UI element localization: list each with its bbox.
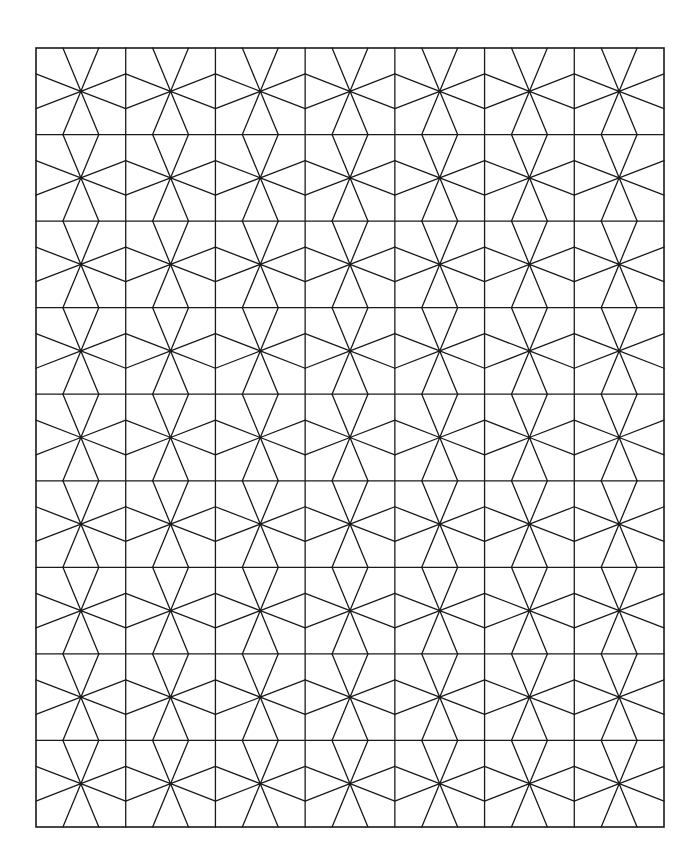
star-center-dot (348, 782, 351, 785)
star-center-dot (528, 436, 531, 439)
star-center-dot (438, 522, 441, 525)
star-center-dot (79, 436, 82, 439)
star-center-dot (169, 263, 172, 266)
star-center-dot (618, 349, 621, 352)
star-center-dot (259, 176, 262, 179)
star-center-dot (528, 522, 531, 525)
star-center-dot (438, 436, 441, 439)
star-center-dot (348, 696, 351, 699)
star-center-dot (169, 696, 172, 699)
star-center-dot (438, 349, 441, 352)
star-center-dot (259, 696, 262, 699)
star-center-dot (79, 176, 82, 179)
star-center-dot (348, 522, 351, 525)
star-center-dot (259, 436, 262, 439)
star-center-dot (79, 522, 82, 525)
star-center-dot (79, 263, 82, 266)
star-center-dot (618, 522, 621, 525)
star-center-dot (79, 696, 82, 699)
star-center-dot (348, 609, 351, 612)
star-center-dot (528, 90, 531, 93)
star-center-dot (259, 349, 262, 352)
star-center-dot (169, 90, 172, 93)
star-center-dot (528, 696, 531, 699)
star-center-dot (348, 176, 351, 179)
star-center-dot (618, 90, 621, 93)
star-grid-pattern (0, 0, 699, 863)
star-center-dot (169, 436, 172, 439)
star-center-dots (79, 90, 620, 786)
star-center-dot (618, 609, 621, 612)
star-center-dot (528, 609, 531, 612)
star-center-dot (79, 349, 82, 352)
star-center-dot (618, 696, 621, 699)
star-center-dot (618, 263, 621, 266)
star-center-dot (528, 782, 531, 785)
star-center-dot (79, 90, 82, 93)
star-center-dot (169, 522, 172, 525)
star-center-dot (79, 782, 82, 785)
star-center-dot (438, 90, 441, 93)
star-center-dot (259, 782, 262, 785)
star-center-dot (348, 436, 351, 439)
star-center-dot (79, 609, 82, 612)
star-center-dot (438, 782, 441, 785)
star-center-dot (169, 609, 172, 612)
star-center-dot (169, 176, 172, 179)
star-center-dot (618, 782, 621, 785)
star-center-dot (259, 522, 262, 525)
star-center-dot (169, 782, 172, 785)
star-center-dot (438, 263, 441, 266)
star-center-dot (169, 349, 172, 352)
pattern-canvas (0, 0, 699, 863)
star-center-dot (618, 176, 621, 179)
star-center-dot (259, 263, 262, 266)
star-center-dot (259, 609, 262, 612)
star-center-dot (259, 90, 262, 93)
star-center-dot (528, 176, 531, 179)
star-center-dot (528, 263, 531, 266)
star-center-dot (528, 349, 531, 352)
star-center-dot (348, 349, 351, 352)
star-center-dot (348, 90, 351, 93)
star-center-dot (438, 696, 441, 699)
star-center-dot (438, 609, 441, 612)
star-center-dot (618, 436, 621, 439)
star-center-dot (348, 263, 351, 266)
star-center-dot (438, 176, 441, 179)
